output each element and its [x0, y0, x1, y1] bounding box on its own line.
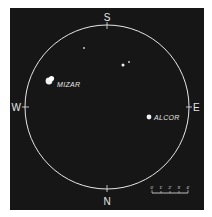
compass-label-south: S — [104, 12, 111, 23]
star-mizar-companion — [49, 76, 54, 81]
compass-label-north: N — [103, 196, 110, 207]
scale-tick-1: 1' — [160, 185, 163, 190]
scale-tick-0: 0' — [151, 185, 154, 190]
mizar-alcor-diagram: S N W E MIZAR ALCOR 0' 1' 2' 3' 4' — [0, 0, 212, 217]
star-faint-1 — [83, 47, 85, 49]
star-faint-2 — [122, 64, 125, 67]
star-label-alcor: ALCOR — [153, 114, 180, 121]
field-of-view-circle — [25, 25, 189, 189]
scale-bar: 0' 1' 2' 3' 4' — [151, 185, 190, 193]
star-label-mizar: MIZAR — [57, 81, 80, 88]
scale-tick-3: 3' — [178, 185, 181, 190]
scale-tick-4: 4' — [187, 185, 190, 190]
compass-label-east: E — [193, 102, 200, 113]
star-faint-3 — [128, 61, 130, 63]
compass-label-west: W — [12, 102, 22, 113]
scale-tick-2: 2' — [169, 185, 172, 190]
star-alcor — [147, 115, 152, 120]
